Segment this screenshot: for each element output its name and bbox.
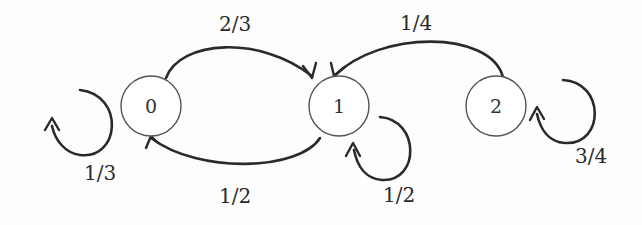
edge-0-to-1 [166,47,312,78]
arrowhead-1-to-0 [146,136,157,148]
label-edge-0-to-1: 2/3 [219,14,251,34]
self-loop-2 [537,80,595,143]
arrowhead-0-to-1 [303,63,316,78]
self-loop-1 [354,117,410,180]
label-edge-1-to-0: 1/2 [219,186,251,206]
edge-1-to-0 [151,138,320,164]
state-label-2: 2 [476,96,516,116]
label-self-loop-0: 1/3 [84,163,116,183]
markov-chain-diagram: 0 1 2 1/3 2/3 1/2 1/2 1/4 3/4 [0,0,642,225]
self-loop-0 [52,90,112,155]
arrowhead-2-to-1 [331,63,345,76]
label-edge-2-to-1: 1/4 [400,13,432,33]
label-self-loop-2: 3/4 [575,146,607,166]
label-self-loop-1: 1/2 [383,185,415,205]
state-label-0: 0 [131,96,171,116]
edge-2-to-1 [334,42,503,77]
state-label-1: 1 [319,96,359,116]
